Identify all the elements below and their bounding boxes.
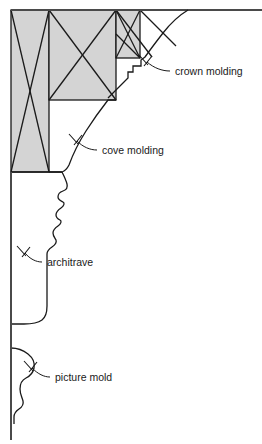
label-picture-mold: picture mold xyxy=(55,371,112,383)
molding-diagram: crown molding cove molding architrave pi… xyxy=(0,0,262,444)
label-cove-molding: cove molding xyxy=(102,144,164,156)
framing-box-stud-left xyxy=(11,10,49,172)
framing-box-joist-middle xyxy=(49,10,116,100)
framing-box-joist-right xyxy=(116,10,140,58)
label-crown-molding: crown molding xyxy=(175,65,243,77)
molding-section-drawing: crown molding cove molding architrave pi… xyxy=(0,0,262,444)
label-architrave: architrave xyxy=(47,256,93,268)
